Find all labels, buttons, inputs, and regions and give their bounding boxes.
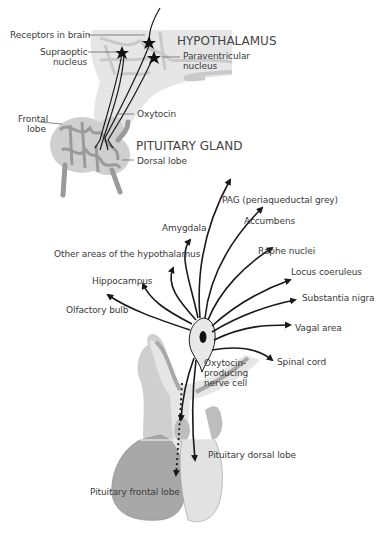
label-paraventricular-line1: Paraventricular [183, 51, 250, 61]
label-substantia-nigra: Substantia nigra [302, 293, 375, 303]
label-supraoptic-line2: nucleus [53, 57, 87, 67]
label-raphe-nuclei: Raphe nuclei [258, 246, 315, 256]
label-locus-coeruleus: Locus coeruleus [291, 267, 362, 277]
pituitary-gland-shape [50, 117, 130, 195]
label-cell-line3: nerve cell [204, 378, 247, 388]
label-frontal-line1: Frontal [18, 114, 48, 124]
label-vagal-area: Vagal area [295, 323, 342, 333]
label-pituitary-frontal-lobe: Pituitary frontal lobe [90, 487, 180, 497]
label-receptors-in-brain: Receptors in brain [10, 30, 90, 40]
label-pituitary-dorsal-lobe: Pituitary dorsal lobe [208, 450, 296, 460]
label-amygdala: Amygdala [162, 223, 206, 233]
label-cell-line1: Oxytocin- [204, 358, 246, 368]
label-spinal-cord: Spinal cord [277, 357, 326, 367]
label-other-hypothalamus: Other areas of the hypothalamus [54, 249, 200, 259]
label-hippocampus: Hippocampus [92, 276, 152, 286]
label-supraoptic-line1: Supraoptic [40, 47, 88, 57]
label-dorsal-lobe: Dorsal lobe [137, 156, 187, 166]
label-cell-line2: producing [204, 368, 248, 378]
label-accumbens: Accumbens [244, 216, 295, 226]
label-paraventricular-line2: nucleus [183, 61, 217, 71]
title-hypothalamus: HYPOTHALAMUS [177, 36, 277, 46]
label-pag: PAG (periaqueductal grey) [222, 195, 338, 205]
label-frontal-line2: lobe [27, 124, 46, 134]
label-olfactory-bulb: Olfactory bulb [66, 305, 128, 315]
label-oxytocin: Oxytocin [137, 109, 176, 119]
title-pituitary-gland: PITUITARY GLAND [136, 141, 242, 151]
